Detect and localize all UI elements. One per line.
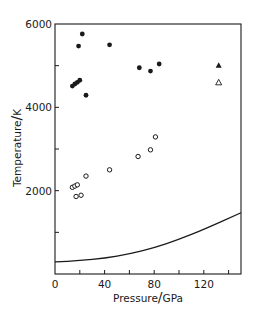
filled-circle-marker	[107, 42, 112, 47]
y-axis-label-quantity: Temperature	[11, 121, 23, 189]
data-markers	[70, 32, 222, 199]
open-circle-marker	[153, 135, 157, 139]
y-axis-title: Temperature/K	[8, 108, 24, 188]
x-axis-title: Pressure/GPa	[113, 289, 183, 305]
filled-circle-marker	[157, 62, 162, 67]
y-tick-label: 6000	[25, 18, 52, 30]
open-circle-marker	[75, 183, 79, 187]
axis-ticks	[55, 66, 229, 274]
x-tick-label: 0	[52, 278, 59, 290]
filled-triangle-marker	[216, 62, 222, 68]
open-triangle-marker	[216, 79, 222, 85]
axis-tick-labels: 04080120200040006000	[25, 18, 214, 290]
y-axis-label-unit: K	[11, 108, 23, 116]
open-circle-marker	[107, 168, 111, 172]
filled-circle-marker	[137, 65, 142, 70]
x-tick-label: 120	[194, 278, 214, 290]
filled-circle-marker	[148, 69, 153, 74]
open-circle-marker	[84, 174, 88, 178]
filled-circle-marker	[77, 78, 82, 83]
open-circle-marker	[79, 193, 83, 197]
x-axis-label-unit: GPa	[163, 292, 183, 304]
y-tick-label: 2000	[25, 185, 52, 197]
curve-line	[55, 213, 241, 262]
filled-circle-marker	[76, 44, 81, 49]
x-axis-label-quantity: Pressure	[113, 292, 158, 304]
curve	[55, 213, 241, 262]
filled-circle-marker	[80, 32, 85, 37]
open-circle-marker	[148, 148, 152, 152]
open-circle-marker	[74, 194, 78, 198]
filled-circle-marker	[84, 93, 89, 98]
x-tick-label: 40	[98, 278, 111, 290]
open-circle-marker	[136, 154, 140, 158]
chart: 04080120200040006000 Pressure/GPa Temper…	[0, 0, 257, 319]
y-tick-label: 4000	[25, 101, 52, 113]
